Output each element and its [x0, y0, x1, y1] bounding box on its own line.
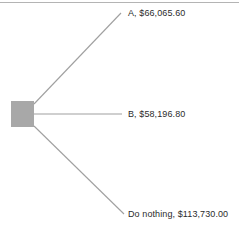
- branch-line-do-nothing: [34, 126, 124, 214]
- decision-node-square: [11, 101, 34, 127]
- branch-label-b: B, $58,196.80: [128, 109, 185, 120]
- diagram-canvas: [0, 0, 239, 229]
- branch-label-do-nothing: Do nothing, $113,730.00: [128, 209, 228, 220]
- decision-tree-diagram: A, $66,065.60 B, $58,196.80 Do nothing, …: [0, 0, 239, 229]
- branch-line-a: [34, 13, 121, 104]
- branch-label-a: A, $66,065.60: [128, 8, 185, 19]
